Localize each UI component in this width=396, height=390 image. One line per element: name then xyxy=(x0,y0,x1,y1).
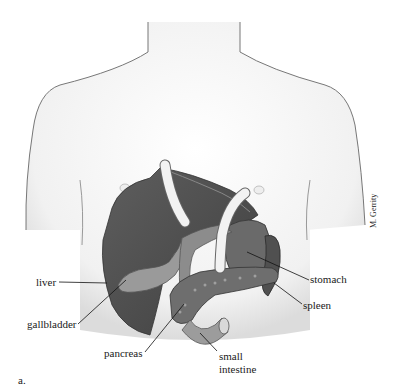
panel-label: a. xyxy=(18,374,26,386)
label-spleen: spleen xyxy=(303,299,331,311)
artist-credit: M. Gerrity xyxy=(369,194,378,228)
label-pancreas: pancreas xyxy=(104,347,142,359)
label-liver: liver xyxy=(36,276,56,288)
label-stomach: stomach xyxy=(310,273,347,285)
label-small-intestine-line2: intestine xyxy=(219,363,256,375)
label-gallbladder: gallbladder xyxy=(27,318,76,330)
label-small-intestine-line1: small xyxy=(219,350,243,362)
anatomy-illustration xyxy=(0,0,396,390)
right-nipple xyxy=(254,186,264,194)
